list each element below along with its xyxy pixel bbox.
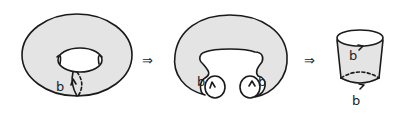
loop-label-b-top: b: [349, 48, 357, 63]
torus: b: [22, 14, 132, 96]
cylinder: b b: [337, 30, 383, 108]
loop-label-b-right: b: [258, 74, 266, 89]
loop-label-b-bottom: b: [352, 93, 360, 108]
cut-torus: b b: [175, 15, 288, 98]
implies-arrow-2: ⇒: [304, 53, 315, 68]
torus-cut-diagram: b ⇒ b b ⇒ b b: [0, 0, 405, 115]
loop-label-b: b: [56, 79, 64, 94]
loop-label-b-left: b: [197, 74, 205, 89]
implies-arrow-1: ⇒: [142, 53, 153, 68]
